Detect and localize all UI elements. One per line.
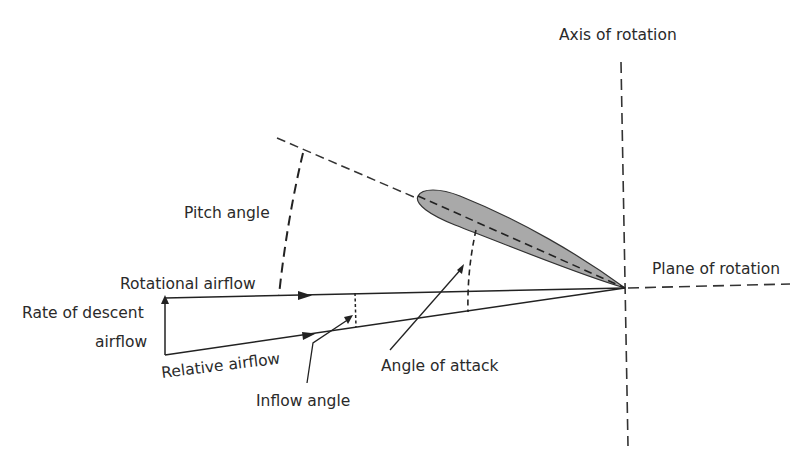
inflow-angle-leader-arrow-icon	[344, 315, 353, 324]
airfoil-blade-section	[417, 190, 625, 288]
axis-of-rotation-line	[621, 62, 628, 446]
rotational-airflow-label: Rotational airflow	[120, 275, 256, 293]
axis-of-rotation-label: Axis of rotation	[559, 26, 677, 44]
plane-of-rotation-label: Plane of rotation	[652, 260, 780, 278]
relative-airflow-label: Relative airflow	[160, 349, 281, 381]
inflow-angle-arc	[355, 293, 356, 327]
rate-of-descent-label-line2: airflow	[95, 333, 147, 351]
rate-of-descent-label: Rate of descent	[22, 304, 144, 322]
plane-of-rotation-line	[628, 284, 790, 288]
inflow-angle-label: Inflow angle	[256, 392, 350, 410]
angle-of-attack-arc	[468, 230, 476, 312]
angle-of-attack-label: Angle of attack	[381, 357, 499, 375]
rate-of-descent-arrow-icon	[161, 295, 169, 304]
rotor-airflow-diagram: Axis of rotation Plane of rotation Pitch…	[0, 0, 806, 467]
angle-of-attack-leader	[390, 268, 462, 350]
pitch-angle-label: Pitch angle	[184, 204, 270, 222]
rotational-airflow-arrow-icon	[298, 291, 312, 300]
pitch-angle-arc	[279, 153, 303, 295]
